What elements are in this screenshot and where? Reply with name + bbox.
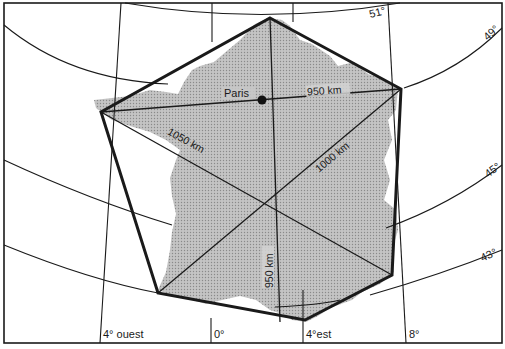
distance-north-south: 950 km [263,253,275,288]
france-hexagon-map: Paris 950 km 1050 km 1000 km 950 km 51° … [0,0,505,349]
parallel-label-51: 51° [368,4,387,20]
paris-dot-icon [258,96,267,105]
distance-west-east: 950 km [307,83,342,97]
parallel-47-left [4,160,172,225]
parallel-45-left [4,245,158,293]
parallel-51 [125,3,400,15]
meridian-labels: 4° ouest 0° 4°est 8° [103,328,420,340]
parallel-49-left [4,25,168,84]
meridian-4w [100,3,121,343]
parallel-label-49: 49° [481,23,501,43]
parallel-label-45: 45° [482,160,503,179]
parallel-label-43: 43° [478,246,498,264]
meridian-label-4w: 4° ouest [103,328,143,340]
meridian-label-8: 8° [409,328,420,340]
meridian-label-0: 0° [214,328,225,340]
meridian-label-4e: 4°est [306,328,331,340]
city-label-paris: Paris [224,87,250,99]
